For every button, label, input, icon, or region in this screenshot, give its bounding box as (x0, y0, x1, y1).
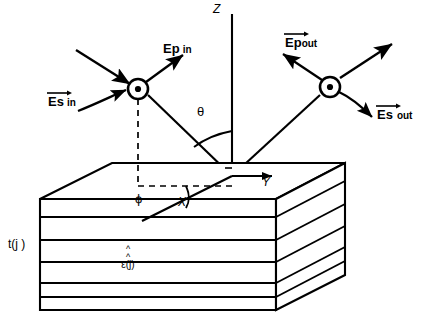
figure-canvas: Z X Y θ ϕ Epin Es in Ep out Es out t(j ) (0, 0, 430, 321)
reflected-ep-vector-overbar-icon (284, 31, 301, 37)
phi-angle-label: ϕ (135, 192, 142, 205)
incident-es-curved-arrow (78, 90, 126, 111)
reflected-es-label: Es out (377, 108, 412, 121)
incident-ep-subscript: in (183, 44, 192, 55)
incident-es-subscript: in (67, 97, 76, 108)
slab-dielectric-label: ^ ^ ε(j) (108, 246, 148, 270)
reflected-es-vector-overbar-icon (376, 103, 392, 109)
reflected-es-symbol: Es (377, 107, 393, 122)
incident-ep-symbol: Ep (163, 41, 180, 56)
incident-es-symbol-group: Es (48, 95, 64, 108)
reflected-es-curved-arrow (339, 92, 372, 117)
incident-es-label: Es in (48, 95, 76, 108)
dielectric-symbol: ε(j) (121, 259, 134, 270)
slab-thickness-label: t(j ) (8, 238, 25, 250)
incident-beam-ray (76, 50, 232, 176)
incident-ep-vector-arrow (146, 55, 183, 82)
reflected-ep-subscript: out (302, 38, 318, 49)
incident-es-symbol: Es (48, 94, 64, 109)
reflected-es-symbol-group: Es (377, 108, 393, 121)
incident-circle-dot-icon (128, 79, 148, 99)
theta-angle-label: θ (197, 105, 204, 118)
diagram-vector-layer (0, 0, 430, 321)
incident-es-vector-overbar-icon (47, 90, 63, 96)
incident-ep-label: Epin (163, 42, 192, 55)
reflected-ep-symbol: Ep (285, 35, 302, 50)
reflected-ep-symbol-group: Ep (285, 36, 302, 49)
x-axis-label: X (178, 196, 186, 208)
z-axis-label: Z (213, 3, 220, 15)
reflected-circle-dot-icon (320, 77, 340, 97)
reflected-ep-label: Ep out (285, 36, 317, 49)
reflected-beam-ray (232, 44, 392, 176)
slab-front-face (40, 199, 276, 310)
reflected-es-subscript: out (397, 110, 413, 121)
y-axis-label: Y (262, 176, 270, 188)
reflected-ep-vector-arrow (283, 54, 322, 80)
